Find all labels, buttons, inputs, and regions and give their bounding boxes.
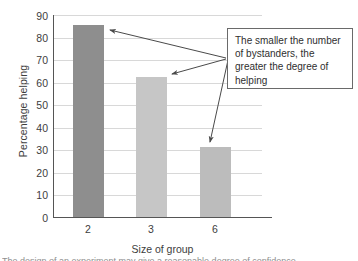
gridline [53,15,262,16]
caption-sliver: The design of an experiment may give a r… [2,256,356,261]
x-tick-label: 3 [131,223,171,235]
bar-group-2 [73,25,104,217]
bar-group-3 [136,77,167,217]
annotation-line-2: of bystanders, the [235,47,346,60]
y-tick-label: 90 [24,11,48,22]
x-tick-label: 2 [68,223,108,235]
y-tick-label: 50 [24,100,48,111]
y-tick-label: 40 [24,123,48,134]
y-tick-label: 80 [24,33,48,44]
y-tick-label: 10 [24,190,48,201]
y-axis-line [53,15,54,218]
bar-chart-figure: Percentage helping 90 80 70 60 50 40 30 … [0,0,358,261]
y-axis-tick-labels: 90 80 70 60 50 40 30 20 10 0 [22,0,48,261]
annotation-line-1: The smaller the number [235,34,346,47]
x-axis-line [53,217,272,218]
y-tick-label: 60 [24,78,48,89]
x-axis-title: Size of group [53,243,272,255]
y-tick-label: 70 [24,55,48,66]
annotation-line-4: helping [235,74,346,87]
y-tick-label: 20 [24,168,48,179]
annotation-line-3: greater the degree of [235,60,346,73]
y-tick-label: 30 [24,145,48,156]
x-tick-label: 6 [195,223,235,235]
y-tick-label: 0 [24,213,48,224]
bar-group-6 [200,147,231,217]
annotation-callout: The smaller the number of bystanders, th… [227,28,353,89]
